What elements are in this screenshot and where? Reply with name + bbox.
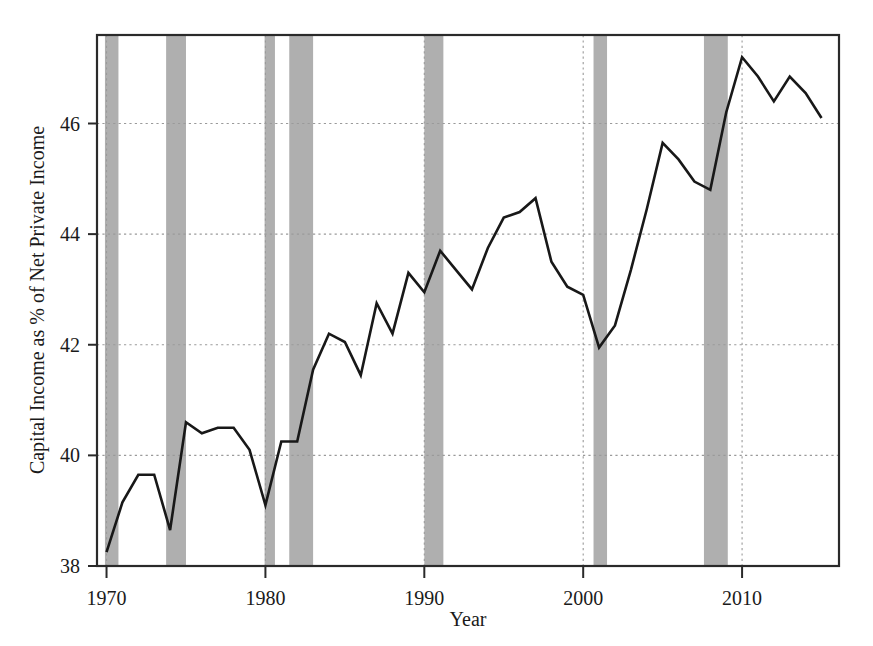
x-tick-label-1990: 1990 xyxy=(404,587,444,609)
y-tick-label-40: 40 xyxy=(60,444,80,466)
x-tick-label-2000: 2000 xyxy=(563,587,603,609)
recession-band-5 xyxy=(594,35,608,566)
y-tick-label-46: 46 xyxy=(60,113,80,135)
x-axis-title: Year xyxy=(450,608,487,630)
recession-band-3 xyxy=(289,35,313,566)
y-axis-title: Capital Income as % of Net Private Incom… xyxy=(26,126,49,474)
chart-container: 19701980199020002010 3840424446 Year Cap… xyxy=(0,0,873,646)
x-tick-label-2010: 2010 xyxy=(722,587,762,609)
recession-band-6 xyxy=(704,35,728,566)
recession-band-4 xyxy=(424,35,443,566)
x-tick-label-1970: 1970 xyxy=(87,587,127,609)
x-tick-label-1980: 1980 xyxy=(245,587,285,609)
y-tick-label-38: 38 xyxy=(60,555,80,577)
y-tick-label-42: 42 xyxy=(60,334,80,356)
y-tick-label-44: 44 xyxy=(60,223,80,245)
capital-income-line-chart: 19701980199020002010 3840424446 Year Cap… xyxy=(0,0,873,646)
